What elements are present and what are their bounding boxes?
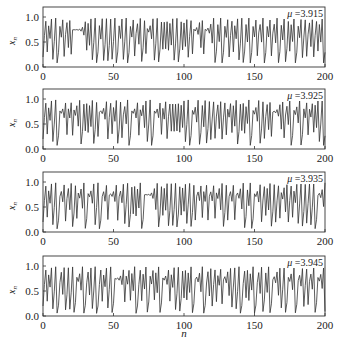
panel-3: 0501001502000.00.51.0xnμ =3.935 bbox=[6, 172, 334, 247]
mu-annotation: μ =3.915 bbox=[286, 8, 323, 19]
figure: 0501001502000.00.51.0xnμ =3.915050100150… bbox=[0, 0, 339, 344]
x-tick-label: 100 bbox=[176, 235, 193, 247]
x-tick-label: 200 bbox=[317, 152, 334, 164]
x-tick-label: 200 bbox=[317, 235, 334, 247]
y-tick-label: 1.0 bbox=[25, 176, 39, 188]
y-tick-label: 1.0 bbox=[25, 11, 39, 23]
x-tick-label: 200 bbox=[317, 319, 334, 331]
x-tick-label: 50 bbox=[108, 319, 120, 331]
mu-annotation: μ =3.925 bbox=[286, 90, 323, 101]
panel-1: 0501001502000.00.51.0xnμ =3.915 bbox=[6, 7, 334, 82]
x-tick-label: 0 bbox=[40, 70, 46, 82]
series-line bbox=[43, 18, 325, 63]
x-tick-label: 50 bbox=[108, 235, 120, 247]
x-tick-label: 0 bbox=[40, 319, 46, 331]
y-tick-label: 0.0 bbox=[25, 143, 39, 155]
y-tick-label: 0.0 bbox=[25, 310, 39, 322]
y-tick-label: 0.5 bbox=[25, 118, 39, 130]
panel-4: 0501001502000.00.51.0xnμ =3.945 bbox=[6, 256, 334, 331]
mu-annotation: μ =3.935 bbox=[286, 173, 323, 184]
x-tick-label: 50 bbox=[108, 70, 120, 82]
y-tick-label: 0.5 bbox=[25, 201, 39, 213]
mu-annotation: μ =3.945 bbox=[286, 257, 323, 268]
x-tick-label: 150 bbox=[246, 70, 263, 82]
series-line bbox=[43, 100, 325, 145]
y-tick-label: 0.5 bbox=[25, 36, 39, 48]
y-tick-label: 1.0 bbox=[25, 93, 39, 105]
y-axis-label: xn bbox=[6, 119, 19, 128]
panel-2: 0501001502000.00.51.0xnμ =3.925 bbox=[6, 89, 334, 164]
y-tick-label: 0.0 bbox=[25, 226, 39, 238]
y-tick-label: 0.5 bbox=[25, 285, 39, 297]
x-tick-label: 0 bbox=[40, 152, 46, 164]
x-tick-label: 100 bbox=[176, 70, 193, 82]
x-tick-label: 150 bbox=[246, 235, 263, 247]
series-line bbox=[43, 183, 325, 229]
x-tick-label: 150 bbox=[246, 152, 263, 164]
x-tick-label: 50 bbox=[108, 152, 120, 164]
x-tick-label: 100 bbox=[176, 152, 193, 164]
y-tick-label: 1.0 bbox=[25, 260, 39, 272]
x-tick-label: 150 bbox=[246, 319, 263, 331]
y-tick-label: 0.0 bbox=[25, 61, 39, 73]
y-axis-label: xn bbox=[6, 37, 19, 46]
y-axis-label: xn bbox=[6, 202, 19, 211]
x-tick-label: 0 bbox=[40, 235, 46, 247]
x-tick-label: 200 bbox=[317, 70, 334, 82]
y-axis-label: xn bbox=[6, 286, 19, 295]
series-line bbox=[43, 267, 325, 314]
panels: 0501001502000.00.51.0xnμ =3.915050100150… bbox=[6, 7, 334, 331]
x-axis-label: n bbox=[181, 327, 187, 339]
